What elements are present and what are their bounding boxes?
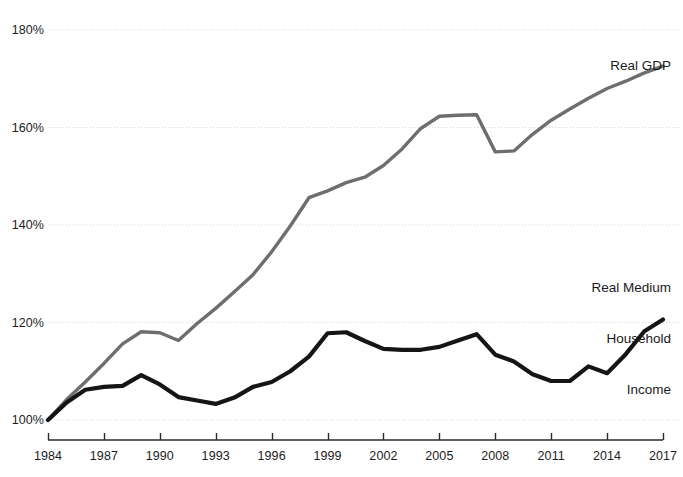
x-axis-tick-label: 1984 xyxy=(23,449,73,463)
x-axis-tick-label: 2014 xyxy=(582,449,632,463)
series-line-real-gdp xyxy=(48,66,663,420)
series-label-real-gdp: Real GDP xyxy=(595,40,671,91)
x-axis-tick-label: 1993 xyxy=(191,449,241,463)
x-axis-tick-label: 2017 xyxy=(638,449,683,463)
income-label-line-3: Income xyxy=(591,381,671,398)
series-label-real-gdp-text: Real GDP xyxy=(610,58,671,73)
gridlines xyxy=(48,30,681,420)
data-series xyxy=(48,66,663,420)
x-axis-tick-label: 1990 xyxy=(135,449,185,463)
x-axis-tick-label: 1987 xyxy=(79,449,129,463)
x-axis xyxy=(48,433,664,440)
x-axis-tick-label: 1996 xyxy=(247,449,297,463)
y-axis-tick-label: 140% xyxy=(0,218,44,232)
series-line-real-medium-household-income xyxy=(48,320,663,420)
x-axis-tick-label: 2011 xyxy=(526,449,576,463)
x-axis-tick-label: 2008 xyxy=(470,449,520,463)
y-axis-tick-label: 120% xyxy=(0,316,44,330)
series-label-real-medium-household-income: Real Medium Household Income xyxy=(591,245,671,432)
line-chart-plot xyxy=(0,0,683,477)
x-axis-tick-label: 1999 xyxy=(303,449,353,463)
y-axis-tick-label: 180% xyxy=(0,23,44,37)
x-axis-tick-label: 2002 xyxy=(358,449,408,463)
y-axis-tick-label: 160% xyxy=(0,121,44,135)
x-axis-tick-label: 2005 xyxy=(414,449,464,463)
y-axis-tick-label: 100% xyxy=(0,413,44,427)
income-label-line-1: Real Medium xyxy=(591,279,671,296)
income-label-line-2: Household xyxy=(591,330,671,347)
chart-container: 180%160%140%120%100% 1984198719901993199… xyxy=(0,0,683,477)
